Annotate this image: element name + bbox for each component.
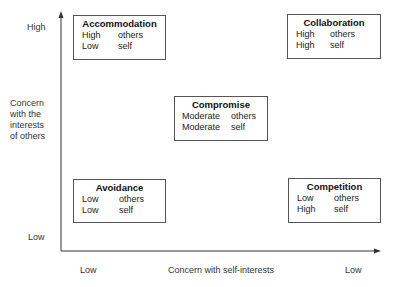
level-value: Low — [82, 205, 119, 216]
level-value: High — [297, 204, 334, 215]
target-value: others — [330, 29, 355, 40]
box-row-others: Low others — [289, 193, 380, 204]
target-value: others — [118, 30, 143, 41]
box-title: Accommodation — [74, 18, 165, 30]
level-value: Low — [82, 41, 118, 52]
level-value: Moderate — [182, 122, 231, 133]
level-value: High — [82, 30, 118, 41]
level-value: Moderate — [182, 111, 231, 122]
y-axis-title: Concern with the interests of others — [10, 98, 45, 142]
compromise-box: Compromise Moderate others Moderate self — [174, 96, 268, 141]
target-value: others — [334, 193, 359, 204]
collaboration-box: Collaboration High others High self — [287, 14, 381, 59]
box-title: Collaboration — [288, 17, 380, 29]
box-row-others: High others — [74, 30, 165, 41]
box-row-others: High others — [288, 29, 380, 40]
level-value: Low — [297, 193, 334, 204]
y-axis-high-label: High — [27, 22, 46, 33]
y-axis-title-line: with the — [10, 109, 45, 120]
accommodation-box: Accommodation High others Low self — [73, 15, 166, 60]
target-value: self — [118, 41, 132, 52]
box-title: Compromise — [175, 99, 267, 111]
x-axis-title: Concern with self-interests — [168, 265, 274, 276]
box-title: Competition — [289, 181, 380, 193]
competition-box: Competition Low others High self — [288, 178, 381, 223]
avoidance-box: Avoidance Low others Low self — [73, 179, 166, 223]
box-row-others: Moderate others — [175, 111, 267, 122]
y-axis-low-label: Low — [28, 232, 45, 243]
x-axis-right-label: Low — [345, 265, 362, 276]
box-row-self: High self — [288, 40, 380, 51]
y-axis-title-line: interests — [10, 120, 45, 131]
box-row-self: Low self — [74, 205, 165, 216]
x-axis-left-label: Low — [80, 265, 97, 276]
box-row-others: Low others — [74, 194, 165, 205]
level-value: High — [296, 40, 330, 51]
target-value: self — [231, 122, 245, 133]
y-axis-title-line: Concern — [10, 98, 45, 109]
box-row-self: Moderate self — [175, 122, 267, 133]
target-value: self — [119, 205, 133, 216]
box-row-self: Low self — [74, 41, 165, 52]
level-value: Low — [82, 194, 119, 205]
target-value: others — [231, 111, 256, 122]
target-value: self — [330, 40, 344, 51]
target-value: self — [334, 204, 348, 215]
box-row-self: High self — [289, 204, 380, 215]
y-axis-arrow-icon — [59, 11, 64, 18]
level-value: High — [296, 29, 330, 40]
target-value: others — [119, 194, 144, 205]
box-title: Avoidance — [74, 182, 165, 194]
y-axis-title-line: of others — [10, 131, 45, 142]
x-axis-arrow-icon — [374, 249, 381, 254]
